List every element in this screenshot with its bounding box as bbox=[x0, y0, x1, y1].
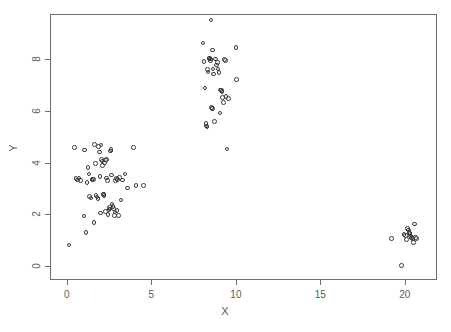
y-axis-title: Y bbox=[8, 144, 19, 151]
y-axis-tick-label: 0 bbox=[32, 263, 42, 269]
y-axis-tick-label: 2 bbox=[32, 211, 42, 217]
x-axis-tick-label: 15 bbox=[315, 290, 326, 300]
x-axis-title: X bbox=[221, 306, 228, 317]
x-axis-tick bbox=[320, 280, 321, 285]
y-axis-tick-label: 8 bbox=[32, 56, 42, 62]
x-axis-tick bbox=[236, 280, 237, 285]
x-axis-tick-label: 10 bbox=[230, 290, 241, 300]
x-axis-tick-label: 20 bbox=[399, 290, 410, 300]
scatter-plot-figure: 0510152002468 X Y bbox=[0, 0, 451, 332]
x-axis-tick-label: 5 bbox=[149, 290, 155, 300]
y-axis-tick-label: 6 bbox=[32, 108, 42, 114]
x-axis-tick bbox=[405, 280, 406, 285]
plot-frame bbox=[50, 14, 437, 280]
y-axis-tick-label: 4 bbox=[32, 160, 42, 166]
x-axis-tick bbox=[67, 280, 68, 285]
x-axis-tick bbox=[151, 280, 152, 285]
x-axis-tick-label: 0 bbox=[64, 290, 70, 300]
